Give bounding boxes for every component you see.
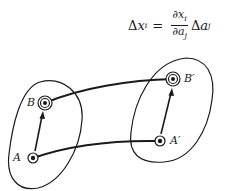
trajectory-b [45,79,173,103]
point-a-icon [28,153,38,163]
lhs-sub: i [145,21,148,30]
point-bprime-icon [166,72,180,86]
den-sub: j [184,31,186,40]
rhs-var: a [200,18,208,33]
lhs-var: x [137,18,144,33]
label-a: A [13,151,21,164]
label-b-prime: B′ [184,72,195,85]
equals-sign: = [152,18,163,33]
lhs-delta: Δ [128,18,137,33]
arrowhead-icon [40,111,46,119]
label-a-prime: A′ [170,134,180,147]
num-sub: i [184,14,187,23]
arrowhead-icon [169,88,175,96]
jacobian-formula: Δxi = ∂xi ∂aj Δaj [128,8,211,42]
fraction-numerator: ∂xi [171,9,187,26]
fraction-denominator: ∂aj [171,26,188,42]
rhs-sub: j [208,21,210,30]
partial-fraction: ∂xi ∂aj [171,9,188,42]
rhs-delta: Δ [191,18,200,33]
point-aprime-icon [155,136,165,146]
arrow-a-to-b [35,116,42,151]
arrow-aprime-to-bprime [161,93,171,134]
label-b: B [27,96,35,109]
trajectory-a [33,141,160,158]
point-b-icon [38,96,52,110]
